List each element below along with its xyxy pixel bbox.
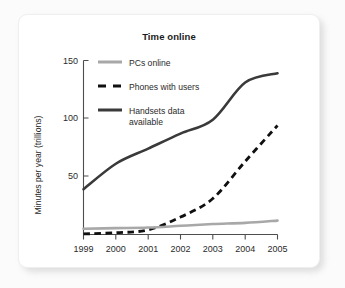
x-tick-label-2003: 2003 xyxy=(203,244,223,254)
legend-item-pcs-online: PCs online xyxy=(98,58,171,68)
series-line-phones-with-users xyxy=(84,125,278,233)
legend-label-handsets-data: Handsets data xyxy=(129,106,185,116)
series-line-pcs-online xyxy=(84,221,278,229)
legend-label-phones-with-users: Phones with users xyxy=(129,82,199,92)
x-tick-label-2002: 2002 xyxy=(170,244,190,254)
chart-card: Time online Minutes per year (trillions)… xyxy=(18,14,320,268)
legend-label-handsets-available: available xyxy=(129,117,163,127)
legend-label-pcs-online: PCs online xyxy=(129,58,171,68)
x-tick-label-2004: 2004 xyxy=(235,244,255,254)
screenshot-root: Time online Minutes per year (trillions)… xyxy=(0,0,345,288)
y-tick-label-150: 150 xyxy=(63,56,78,66)
y-tick-label-50: 50 xyxy=(68,171,78,181)
x-tick-label-2001: 2001 xyxy=(138,244,158,254)
x-tick-label-2005: 2005 xyxy=(267,244,287,254)
legend-item-phones-with-users: Phones with users xyxy=(98,82,199,92)
legend-item-handsets-data-available: Handsets data available xyxy=(98,106,185,128)
x-tick-label-2000: 2000 xyxy=(106,244,126,254)
x-tick-label-1999: 1999 xyxy=(73,244,93,254)
y-axis-title: Minutes per year (trillions) xyxy=(33,115,43,214)
chart-legend: PCs online Phones with users Handsets da… xyxy=(98,58,199,128)
y-tick-label-100: 100 xyxy=(63,113,78,123)
line-chart-plot: Minutes per year (trillions) 150 100 50 … xyxy=(19,15,319,267)
